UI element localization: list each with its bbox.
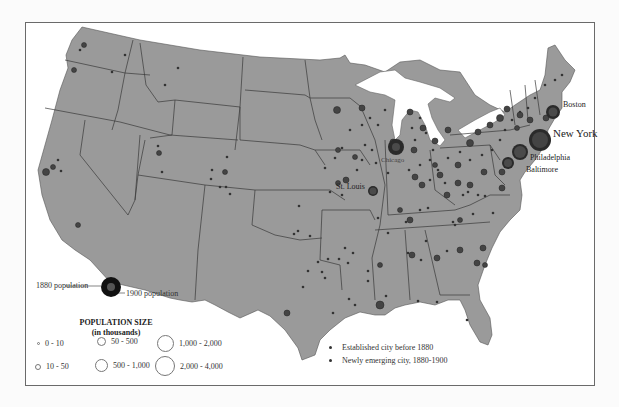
legend-1880-label: 1880 population [36, 281, 88, 290]
legend-circle-icon [97, 337, 106, 346]
legend-size-label: 2,000 - 4,000 [180, 362, 223, 371]
legend-size-10-50: 10 - 50 [35, 362, 69, 371]
legend-size-0-10: 0 - 10 [36, 339, 64, 348]
legend-size-2000-4000: 2,000 - 4,000 [155, 356, 223, 376]
city-label-st-louis: St. Louis [336, 182, 365, 191]
legend-circle-icon [157, 335, 174, 352]
city-label-baltimore: Baltimore [526, 165, 558, 174]
city-label-philadelphia: Philadelphia [530, 153, 570, 162]
legend-size-label: 10 - 50 [46, 362, 69, 371]
legend-circle-icon [35, 364, 41, 370]
legend-new-city: Newly emerging city, 1880-1900 [329, 356, 448, 365]
us-landmass [38, 27, 575, 360]
legend-circle-icon [37, 342, 40, 345]
new-city-dot-icon [329, 359, 332, 362]
legend-1900-label: 1900 population [126, 289, 178, 298]
legend-size-500-1000: 500 - 1,000 [95, 359, 150, 372]
legend-established-label: Established city before 1880 [342, 343, 433, 352]
legend-size-label: 50 - 500 [111, 337, 138, 346]
legend-circle-icon [155, 356, 175, 376]
legend-size-label: 500 - 1,000 [113, 361, 150, 370]
legend-established-city: Established city before 1880 [329, 343, 433, 352]
legend-size-label: 1,000 - 2,000 [179, 339, 222, 348]
city-label-boston: Boston [563, 100, 586, 109]
us-map [0, 0, 619, 407]
legend-size-label: 0 - 10 [45, 339, 64, 348]
legend-title: POPULATION SIZE (in thousands) [60, 318, 172, 338]
legend-circle-icon [95, 359, 108, 372]
city-label-new-york: New York [553, 127, 598, 139]
city-label-chicago: Chicago [381, 156, 404, 164]
established-city-dot-icon [329, 346, 332, 349]
legend-title-text: POPULATION SIZE [80, 318, 153, 327]
legend-size-50-500: 50 - 500 [97, 337, 138, 346]
legend-new-label: Newly emerging city, 1880-1900 [342, 356, 448, 365]
legend-size-1000-2000: 1,000 - 2,000 [157, 335, 222, 352]
